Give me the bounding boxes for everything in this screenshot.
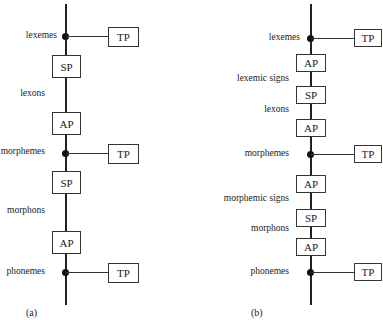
level-label-lexemes: lexemes — [269, 32, 300, 42]
connector-line — [311, 38, 354, 39]
ap-box: AP — [296, 238, 326, 256]
tp-box: TP — [354, 263, 382, 281]
level-label-morphemes: morphemes — [1, 146, 45, 156]
connector-line — [66, 36, 108, 37]
ap-box: AP — [52, 112, 81, 135]
connector-line — [66, 153, 108, 154]
sp-box: SP — [52, 55, 81, 78]
ap-box: AP — [296, 119, 326, 137]
ap-box: AP — [296, 54, 326, 72]
level-label-lexons: lexons — [264, 104, 289, 114]
level-label-morphons: morphons — [7, 205, 45, 215]
level-label-morphons: morphons — [251, 223, 289, 233]
connector-line — [311, 154, 354, 155]
sp-box: SP — [296, 86, 326, 104]
caption-a: (a) — [26, 307, 37, 318]
caption-b: (b) — [251, 307, 263, 318]
level-label-phonemes: phonemes — [6, 266, 45, 276]
sp-box: SP — [52, 171, 81, 194]
level-label-lexemic-signs: lexemic signs — [237, 73, 289, 83]
ap-box: AP — [52, 231, 81, 254]
connector-line — [311, 272, 354, 273]
level-label-morphemic-signs: morphemic signs — [224, 193, 289, 203]
level-label-lexemes: lexemes — [26, 30, 57, 40]
tp-box: TP — [108, 27, 139, 47]
level-label-morphemes: morphemes — [245, 148, 289, 158]
connector-line — [66, 272, 108, 273]
tp-box: TP — [108, 144, 139, 164]
tp-box: TP — [108, 263, 139, 283]
tp-box: TP — [354, 145, 382, 163]
level-label-phonemes: phonemes — [250, 266, 289, 276]
level-label-lexons: lexons — [20, 88, 45, 98]
tp-box: TP — [354, 29, 382, 47]
ap-box: AP — [296, 175, 326, 193]
sp-box: SP — [296, 209, 326, 227]
